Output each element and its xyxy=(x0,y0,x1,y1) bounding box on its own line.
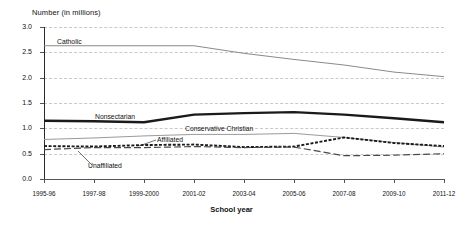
series-label-conservative-christian: Conservative Christian xyxy=(185,125,253,132)
x-tick-mark xyxy=(194,179,195,183)
x-tick-label: 1995-96 xyxy=(32,190,55,197)
series-lines xyxy=(44,27,444,179)
series-line-unaffiliated xyxy=(44,147,444,156)
y-tick-label: 0.0 xyxy=(8,175,32,182)
x-axis-title: School year xyxy=(0,205,463,214)
y-tick-label: 2.0 xyxy=(8,74,32,81)
y-axis-title: Number (in millions) xyxy=(32,8,101,17)
series-label-affiliated: Affiliated xyxy=(157,136,183,143)
x-tick-label: 1997-98 xyxy=(82,190,105,197)
x-tick-label: 2005-06 xyxy=(282,190,305,197)
x-tick-mark xyxy=(44,179,45,183)
x-tick-label: 1999-2000 xyxy=(129,190,159,197)
chart-container: Number (in millions) 0.00.51.01.52.02.53… xyxy=(0,0,463,227)
x-tick-mark xyxy=(244,179,245,183)
x-tick-label: 2001-02 xyxy=(182,190,205,197)
y-tick-label: 2.5 xyxy=(8,48,32,55)
x-tick-mark xyxy=(294,179,295,183)
series-label-catholic: Catholic xyxy=(57,38,82,45)
series-line-affiliated xyxy=(44,137,444,147)
y-tick-label: 0.5 xyxy=(8,150,32,157)
y-tick-label: 1.5 xyxy=(8,99,32,106)
x-tick-label: 2007-08 xyxy=(332,190,355,197)
x-tick-label: 2003-04 xyxy=(232,190,255,197)
y-tick-label: 3.0 xyxy=(8,23,32,30)
x-tick-label: 2011-12 xyxy=(433,190,456,197)
series-line-catholic xyxy=(44,46,444,77)
series-label-unaffiliated: Unaffiliated xyxy=(88,162,122,169)
x-tick-mark xyxy=(144,179,145,183)
x-tick-mark xyxy=(394,179,395,183)
x-tick-mark xyxy=(444,179,445,183)
x-tick-label: 2009-10 xyxy=(382,190,405,197)
x-tick-mark xyxy=(94,179,95,183)
series-line-conservative-christian xyxy=(44,133,444,147)
series-label-nonsectarian: Nonsectarian xyxy=(95,113,135,120)
y-tick-label: 1.0 xyxy=(8,124,32,131)
x-tick-mark xyxy=(344,179,345,183)
